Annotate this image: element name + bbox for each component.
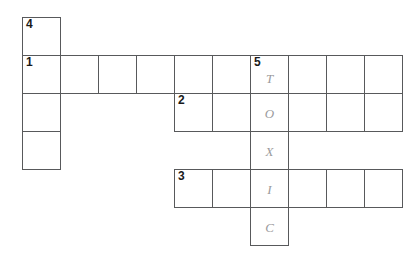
cell-letter: I	[251, 182, 288, 196]
crossword-cell-r0-c0[interactable]: 4	[22, 17, 61, 56]
cell-number: 2	[178, 94, 185, 107]
cell-letter: C	[251, 220, 288, 234]
cell-number: 5	[254, 56, 261, 69]
cell-number: 4	[26, 18, 33, 31]
crossword-cell-r3-c6[interactable]: X	[250, 131, 289, 170]
crossword-cell-r2-c0[interactable]	[22, 93, 61, 132]
crossword-puzzle: 415T2OX3IC	[0, 0, 420, 269]
crossword-cell-r4-c6[interactable]: I	[250, 169, 289, 208]
crossword-cell-r4-c7[interactable]	[288, 169, 327, 208]
crossword-cell-r1-c0[interactable]: 1	[22, 55, 61, 94]
crossword-cell-r1-c5[interactable]	[212, 55, 251, 94]
crossword-cell-r3-c0[interactable]	[22, 131, 61, 170]
crossword-cell-r2-c9[interactable]	[364, 93, 403, 132]
cell-number: 1	[26, 56, 33, 69]
crossword-cell-r2-c4[interactable]: 2	[174, 93, 213, 132]
crossword-cell-r4-c5[interactable]	[212, 169, 251, 208]
crossword-cell-r2-c5[interactable]	[212, 93, 251, 132]
cell-letter: O	[251, 106, 288, 120]
crossword-cell-r1-c6[interactable]: 5T	[250, 55, 289, 94]
crossword-cell-r1-c9[interactable]	[364, 55, 403, 94]
crossword-cell-r4-c8[interactable]	[326, 169, 365, 208]
crossword-cell-r4-c4[interactable]: 3	[174, 169, 213, 208]
crossword-cell-r1-c8[interactable]	[326, 55, 365, 94]
crossword-cell-r1-c3[interactable]	[136, 55, 175, 94]
cell-number: 3	[178, 170, 185, 183]
cell-letter: X	[251, 144, 288, 158]
crossword-cell-r1-c1[interactable]	[60, 55, 99, 94]
crossword-cell-r5-c6[interactable]: C	[250, 207, 289, 246]
crossword-cell-r2-c7[interactable]	[288, 93, 327, 132]
crossword-cell-r4-c9[interactable]	[364, 169, 403, 208]
crossword-cell-r1-c4[interactable]	[174, 55, 213, 94]
crossword-cell-r1-c2[interactable]	[98, 55, 137, 94]
crossword-cell-r2-c6[interactable]: O	[250, 93, 289, 132]
crossword-cell-r2-c8[interactable]	[326, 93, 365, 132]
cell-letter: T	[251, 71, 288, 85]
crossword-cell-r1-c7[interactable]	[288, 55, 327, 94]
